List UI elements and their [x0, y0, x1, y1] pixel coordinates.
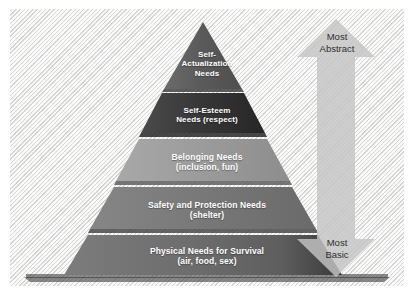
tier-label-line3: Needs: [181, 69, 232, 78]
tier-label-line2: Actualization: [181, 59, 232, 68]
tier-label-line1: Self-Esteem: [176, 106, 238, 115]
tier-label-line2: (inclusion, fun): [172, 162, 243, 172]
maslow-pyramid-screenshot: Self- Actualization Needs: [0, 0, 415, 296]
arrow-bottom-label-line2: Basic: [306, 249, 368, 261]
arrow-bottom-label-line1: Most: [306, 237, 368, 249]
tier-label-line1: Safety and Protection Needs: [148, 200, 266, 210]
diagram-canvas: Self- Actualization Needs: [10, 9, 404, 286]
arrow-top-label: Most Abstract: [306, 31, 368, 54]
tier-label-line1: Self-: [181, 50, 232, 59]
tier-label-line2: (shelter): [148, 210, 266, 220]
pyramid-tier-safety-protection[interactable]: Safety and Protection Needs (shelter): [10, 187, 404, 235]
pyramid-tier-self-esteem[interactable]: Self-Esteem Needs (respect): [10, 93, 404, 139]
arrow-top-label-line1: Most: [306, 31, 368, 43]
tier-label-line1: Physical Needs for Survival: [150, 246, 264, 256]
arrow-bottom-label: Most Basic: [306, 237, 368, 260]
tier-label-line2: Needs (respect): [176, 115, 238, 124]
tier-label-line1: Belonging Needs: [172, 152, 243, 162]
arrow-top-label-line2: Abstract: [306, 43, 368, 55]
pyramid-tier-belonging[interactable]: Belonging Needs (inclusion, fun): [10, 139, 404, 187]
tier-label-line2: (air, food, sex): [150, 256, 264, 266]
